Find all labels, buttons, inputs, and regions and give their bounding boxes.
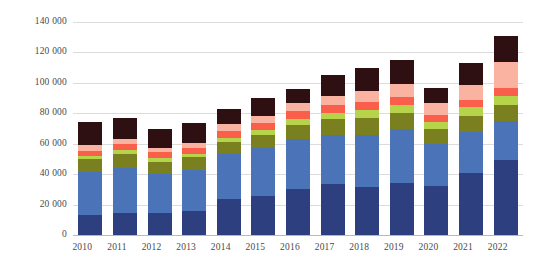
bar-segment[interactable] [321, 75, 345, 96]
bar-segment[interactable] [390, 129, 414, 183]
bar[interactable] [217, 109, 241, 235]
bar-segment[interactable] [494, 36, 518, 63]
bar-segment[interactable] [390, 60, 414, 84]
bar-segment[interactable] [355, 118, 379, 135]
gridline [73, 22, 523, 23]
bar-segment[interactable] [355, 110, 379, 118]
bar-segment[interactable] [390, 84, 414, 97]
bar-segment[interactable] [424, 103, 448, 114]
bar[interactable] [78, 122, 102, 235]
bar[interactable] [286, 89, 310, 235]
bar-segment[interactable] [113, 154, 137, 168]
bar-segment[interactable] [424, 186, 448, 235]
bar[interactable] [251, 98, 275, 235]
bar-segment[interactable] [251, 148, 275, 196]
bar-segment[interactable] [494, 88, 518, 96]
bar[interactable] [182, 123, 206, 235]
x-axis-tick-label: 2022 [478, 243, 518, 253]
y-axis-tick-label: 140 000 [3, 17, 67, 27]
bar-segment[interactable] [355, 91, 379, 102]
bar-segment[interactable] [286, 103, 310, 111]
bar-segment[interactable] [321, 113, 345, 120]
bar-segment[interactable] [321, 184, 345, 235]
y-axis-tick-label: 60 000 [3, 139, 67, 149]
bar-segment[interactable] [217, 124, 241, 131]
bar-segment[interactable] [494, 121, 518, 160]
bar-segment[interactable] [424, 88, 448, 103]
bar-segment[interactable] [459, 132, 483, 174]
bar-segment[interactable] [148, 129, 172, 148]
y-axis-tick-label: 80 000 [3, 108, 67, 118]
bar-segment[interactable] [217, 109, 241, 124]
bar-segment[interactable] [286, 139, 310, 188]
bar-segment[interactable] [355, 135, 379, 187]
bar-segment[interactable] [494, 160, 518, 235]
bar[interactable] [390, 60, 414, 235]
bar-segment[interactable] [182, 211, 206, 235]
bar-segment[interactable] [113, 118, 137, 139]
bar[interactable] [355, 68, 379, 235]
bar-segment[interactable] [251, 116, 275, 124]
bar-segment[interactable] [251, 196, 275, 235]
bar[interactable] [148, 129, 172, 235]
bar-segment[interactable] [251, 98, 275, 115]
gridline [73, 235, 523, 236]
bar-segment[interactable] [182, 170, 206, 210]
bar-segment[interactable] [355, 68, 379, 92]
bar-segment[interactable] [78, 172, 102, 215]
y-axis-tick-label: 20 000 [3, 200, 67, 210]
bar-segment[interactable] [251, 123, 275, 130]
bar-segment[interactable] [494, 105, 518, 121]
gridline [73, 83, 523, 84]
bar[interactable] [494, 36, 518, 235]
bar-segment[interactable] [355, 102, 379, 110]
bar-segment[interactable] [217, 154, 241, 199]
bar-segment[interactable] [148, 213, 172, 235]
bar-segment[interactable] [182, 157, 206, 170]
bar-segment[interactable] [494, 96, 518, 105]
bar-segment[interactable] [251, 135, 275, 148]
bar-segment[interactable] [113, 168, 137, 213]
bar-segment[interactable] [424, 122, 448, 130]
bar-segment[interactable] [494, 62, 518, 88]
bar-segment[interactable] [286, 89, 310, 103]
bar-segment[interactable] [424, 115, 448, 122]
bar-segment[interactable] [321, 96, 345, 105]
bar-segment[interactable] [390, 105, 414, 113]
gridline [73, 52, 523, 53]
bar-segment[interactable] [321, 105, 345, 113]
bar-segment[interactable] [390, 113, 414, 129]
bar-segment[interactable] [459, 173, 483, 235]
bar-segment[interactable] [390, 183, 414, 235]
bar-segment[interactable] [390, 97, 414, 105]
bar-segment[interactable] [424, 144, 448, 186]
bar-segment[interactable] [459, 85, 483, 99]
bar-segment[interactable] [182, 123, 206, 143]
bar-segment[interactable] [148, 162, 172, 174]
bar-segment[interactable] [424, 129, 448, 143]
bar-segment[interactable] [113, 213, 137, 235]
bar[interactable] [424, 88, 448, 235]
bar-segment[interactable] [321, 135, 345, 184]
bar-segment[interactable] [355, 187, 379, 235]
bar-segment[interactable] [78, 159, 102, 172]
bar-segment[interactable] [78, 122, 102, 145]
bar-segment[interactable] [459, 116, 483, 132]
bar-segment[interactable] [459, 100, 483, 108]
bar-segment[interactable] [286, 125, 310, 139]
y-axis-tick-label: 40 000 [3, 169, 67, 179]
bar-segment[interactable] [217, 199, 241, 235]
bar-segment[interactable] [286, 189, 310, 235]
bar-segment[interactable] [321, 119, 345, 135]
bar-segment[interactable] [78, 215, 102, 235]
bar[interactable] [459, 63, 483, 235]
y-axis: 020 00040 00060 00080 000100 000120 0001… [0, 0, 67, 270]
bar-segment[interactable] [459, 107, 483, 115]
bar-segment[interactable] [148, 174, 172, 213]
bar-segment[interactable] [459, 63, 483, 85]
bar-segment[interactable] [217, 142, 241, 154]
bar-segment[interactable] [286, 111, 310, 119]
bar[interactable] [321, 75, 345, 235]
bar[interactable] [113, 118, 137, 235]
bar-segment[interactable] [217, 131, 241, 138]
